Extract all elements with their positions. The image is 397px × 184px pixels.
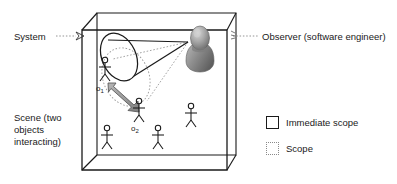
box-edge-top-right bbox=[227, 13, 236, 30]
observer-head bbox=[191, 26, 210, 50]
immediate-cone-side-upper bbox=[108, 40, 188, 42]
actor-o1 bbox=[99, 57, 111, 81]
actor-leg-right bbox=[158, 142, 163, 149]
legend-label-immediate-scope: Immediate scope bbox=[286, 117, 358, 128]
callout-label-scene: Scene (two objects interacting) bbox=[14, 112, 92, 148]
immediate-cone-base bbox=[93, 27, 144, 87]
object-label-o1: o1 bbox=[96, 84, 104, 93]
callout-leader-observer bbox=[231, 31, 258, 39]
object-label-o2: o2 bbox=[131, 124, 139, 133]
callout-label-system: System bbox=[14, 31, 46, 43]
box-edge-bottom-left bbox=[82, 155, 97, 170]
actor-leg-right bbox=[191, 120, 196, 127]
actor-leg-right bbox=[139, 115, 144, 122]
observer-avatar bbox=[186, 26, 214, 72]
box-edge-bottom-right bbox=[227, 155, 236, 170]
legend-label-scope: Scope bbox=[286, 143, 313, 154]
actor-leg-left bbox=[102, 142, 107, 149]
figure-canvas: System Observer (software engineer) Scen… bbox=[0, 0, 397, 184]
solid-square-icon bbox=[266, 116, 279, 129]
actor-bottom-left bbox=[101, 125, 113, 149]
immediate-cone-side-lower bbox=[134, 42, 188, 76]
legend-item-scope: Scope bbox=[266, 138, 392, 158]
actor-bottom-mid bbox=[152, 125, 164, 149]
actor-leg-left bbox=[186, 120, 191, 127]
observer-highlight bbox=[193, 28, 200, 37]
actor-head bbox=[136, 98, 141, 103]
object-label-o1-sub: 1 bbox=[100, 88, 103, 94]
callout-leader-system bbox=[56, 32, 84, 40]
object-label-o2-sub: 2 bbox=[135, 128, 138, 134]
callout-label-observer: Observer (software engineer) bbox=[262, 31, 386, 43]
legend-item-immediate-scope: Immediate scope bbox=[266, 112, 392, 132]
actor-leg-left bbox=[134, 115, 139, 122]
box-edge-top-left bbox=[82, 13, 97, 30]
dotted-square-icon bbox=[266, 142, 279, 155]
scope-cone-side-upper bbox=[113, 42, 188, 59]
legend: Immediate scope Scope bbox=[266, 112, 392, 164]
actor-leg-left bbox=[153, 142, 158, 149]
actor-head bbox=[155, 125, 160, 130]
scope-cone-side-lower bbox=[147, 42, 188, 101]
actor-head bbox=[102, 57, 107, 62]
actor-head bbox=[104, 125, 109, 130]
actor-leg-right bbox=[105, 74, 110, 81]
actor-right bbox=[185, 103, 197, 127]
actor-leg-right bbox=[107, 142, 112, 149]
actor-head bbox=[188, 103, 193, 108]
